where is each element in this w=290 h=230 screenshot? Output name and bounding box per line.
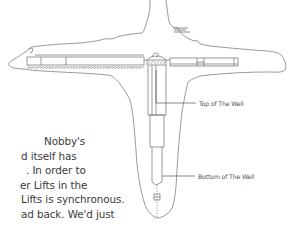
body-text-line: ad back. We'd just bbox=[0, 207, 170, 222]
tower-outline-right bbox=[166, 0, 178, 28]
tower-hatch bbox=[173, 28, 190, 32]
body-text-line: Lifts is synchronous. bbox=[0, 192, 170, 207]
right-wing-outline bbox=[178, 28, 286, 82]
well-head bbox=[144, 53, 170, 65]
left-wing-outline bbox=[9, 33, 142, 150]
body-text-line: er Lifts in the bbox=[0, 178, 170, 193]
bottom-of-well-label: Bottom of The Well bbox=[198, 173, 254, 180]
left-hatch-floor bbox=[27, 67, 144, 69]
body-text-line: d itself has bbox=[0, 149, 170, 164]
tower-outline-left bbox=[142, 0, 150, 33]
body-text-line: Nobby's bbox=[0, 134, 170, 149]
top-of-well-label: Top of The Well bbox=[199, 100, 244, 107]
body-text-excerpt: Nobby's d itself has . In order to er Li… bbox=[0, 134, 170, 221]
right-chamber bbox=[170, 58, 238, 66]
body-text-line: . In order to bbox=[0, 163, 170, 178]
left-chamber bbox=[27, 55, 144, 65]
